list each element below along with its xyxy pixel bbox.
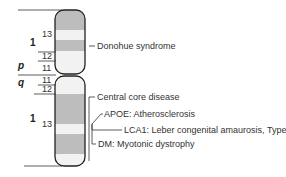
region-label-q1: 1 [30, 113, 36, 124]
band-p13-dark-1 [55, 10, 85, 30]
arm-label-q: q [18, 77, 24, 88]
region-label-p1: 1 [30, 37, 36, 48]
annotation-central-core: Central core disease [97, 92, 180, 102]
band-label-p13: 13 [42, 29, 52, 39]
arm-label-p: p [17, 60, 24, 71]
chromosome-diagram: 13 1 12 p 11 q 11 12 1 13 Donohue syndro… [0, 0, 286, 177]
annotation-lca1: LCA1: Leber congenital amaurosis, Type 1 [124, 125, 286, 135]
annotation-dm: DM: Myotonic dystrophy [98, 139, 195, 149]
band-label-q13: 13 [42, 119, 52, 129]
p-arm [55, 10, 85, 74]
annotation-donohue: Donohue syndrome [97, 41, 176, 51]
band-p13-dark-2 [55, 40, 85, 51]
band-label-p11: 11 [42, 63, 51, 73]
q-arm [55, 76, 85, 166]
annotation-apoe: APOE: Atherosclerosis [104, 109, 196, 119]
band-label-p12: 12 [42, 51, 52, 61]
band-q13-dark-2 [55, 134, 85, 154]
band-label-q12: 12 [42, 84, 52, 94]
band-q13-dark-1 [55, 94, 85, 124]
